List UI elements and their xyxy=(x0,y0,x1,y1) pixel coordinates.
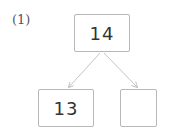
whole-number-box: 14 xyxy=(74,14,130,52)
part-number-box-right-blank[interactable] xyxy=(120,89,157,127)
arrow-right-icon xyxy=(104,53,137,87)
part-number-box-left: 13 xyxy=(38,89,94,127)
arrow-left-icon xyxy=(69,53,100,87)
